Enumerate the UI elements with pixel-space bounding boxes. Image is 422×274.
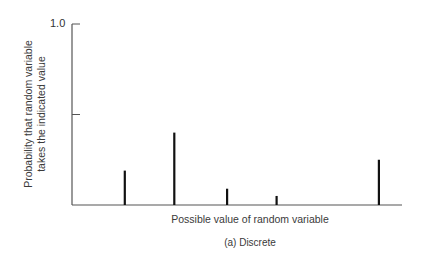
probability-stems	[125, 133, 379, 205]
y-tick-label-1-0: 1.0	[50, 18, 65, 29]
figure-caption: (a) Discrete	[150, 237, 350, 248]
y-ticks	[72, 24, 80, 115]
x-axis-label: Possible value of random variable	[150, 213, 350, 225]
y-axis-label: Probability that random variable takes t…	[22, 24, 48, 204]
y-axis-label-line-2: takes the indicated value	[35, 24, 48, 204]
y-axis-label-line-1: Probability that random variable	[22, 24, 35, 204]
discrete-probability-chart: 1.0 Probability that random variable tak…	[0, 0, 422, 274]
plot-area	[0, 0, 422, 274]
